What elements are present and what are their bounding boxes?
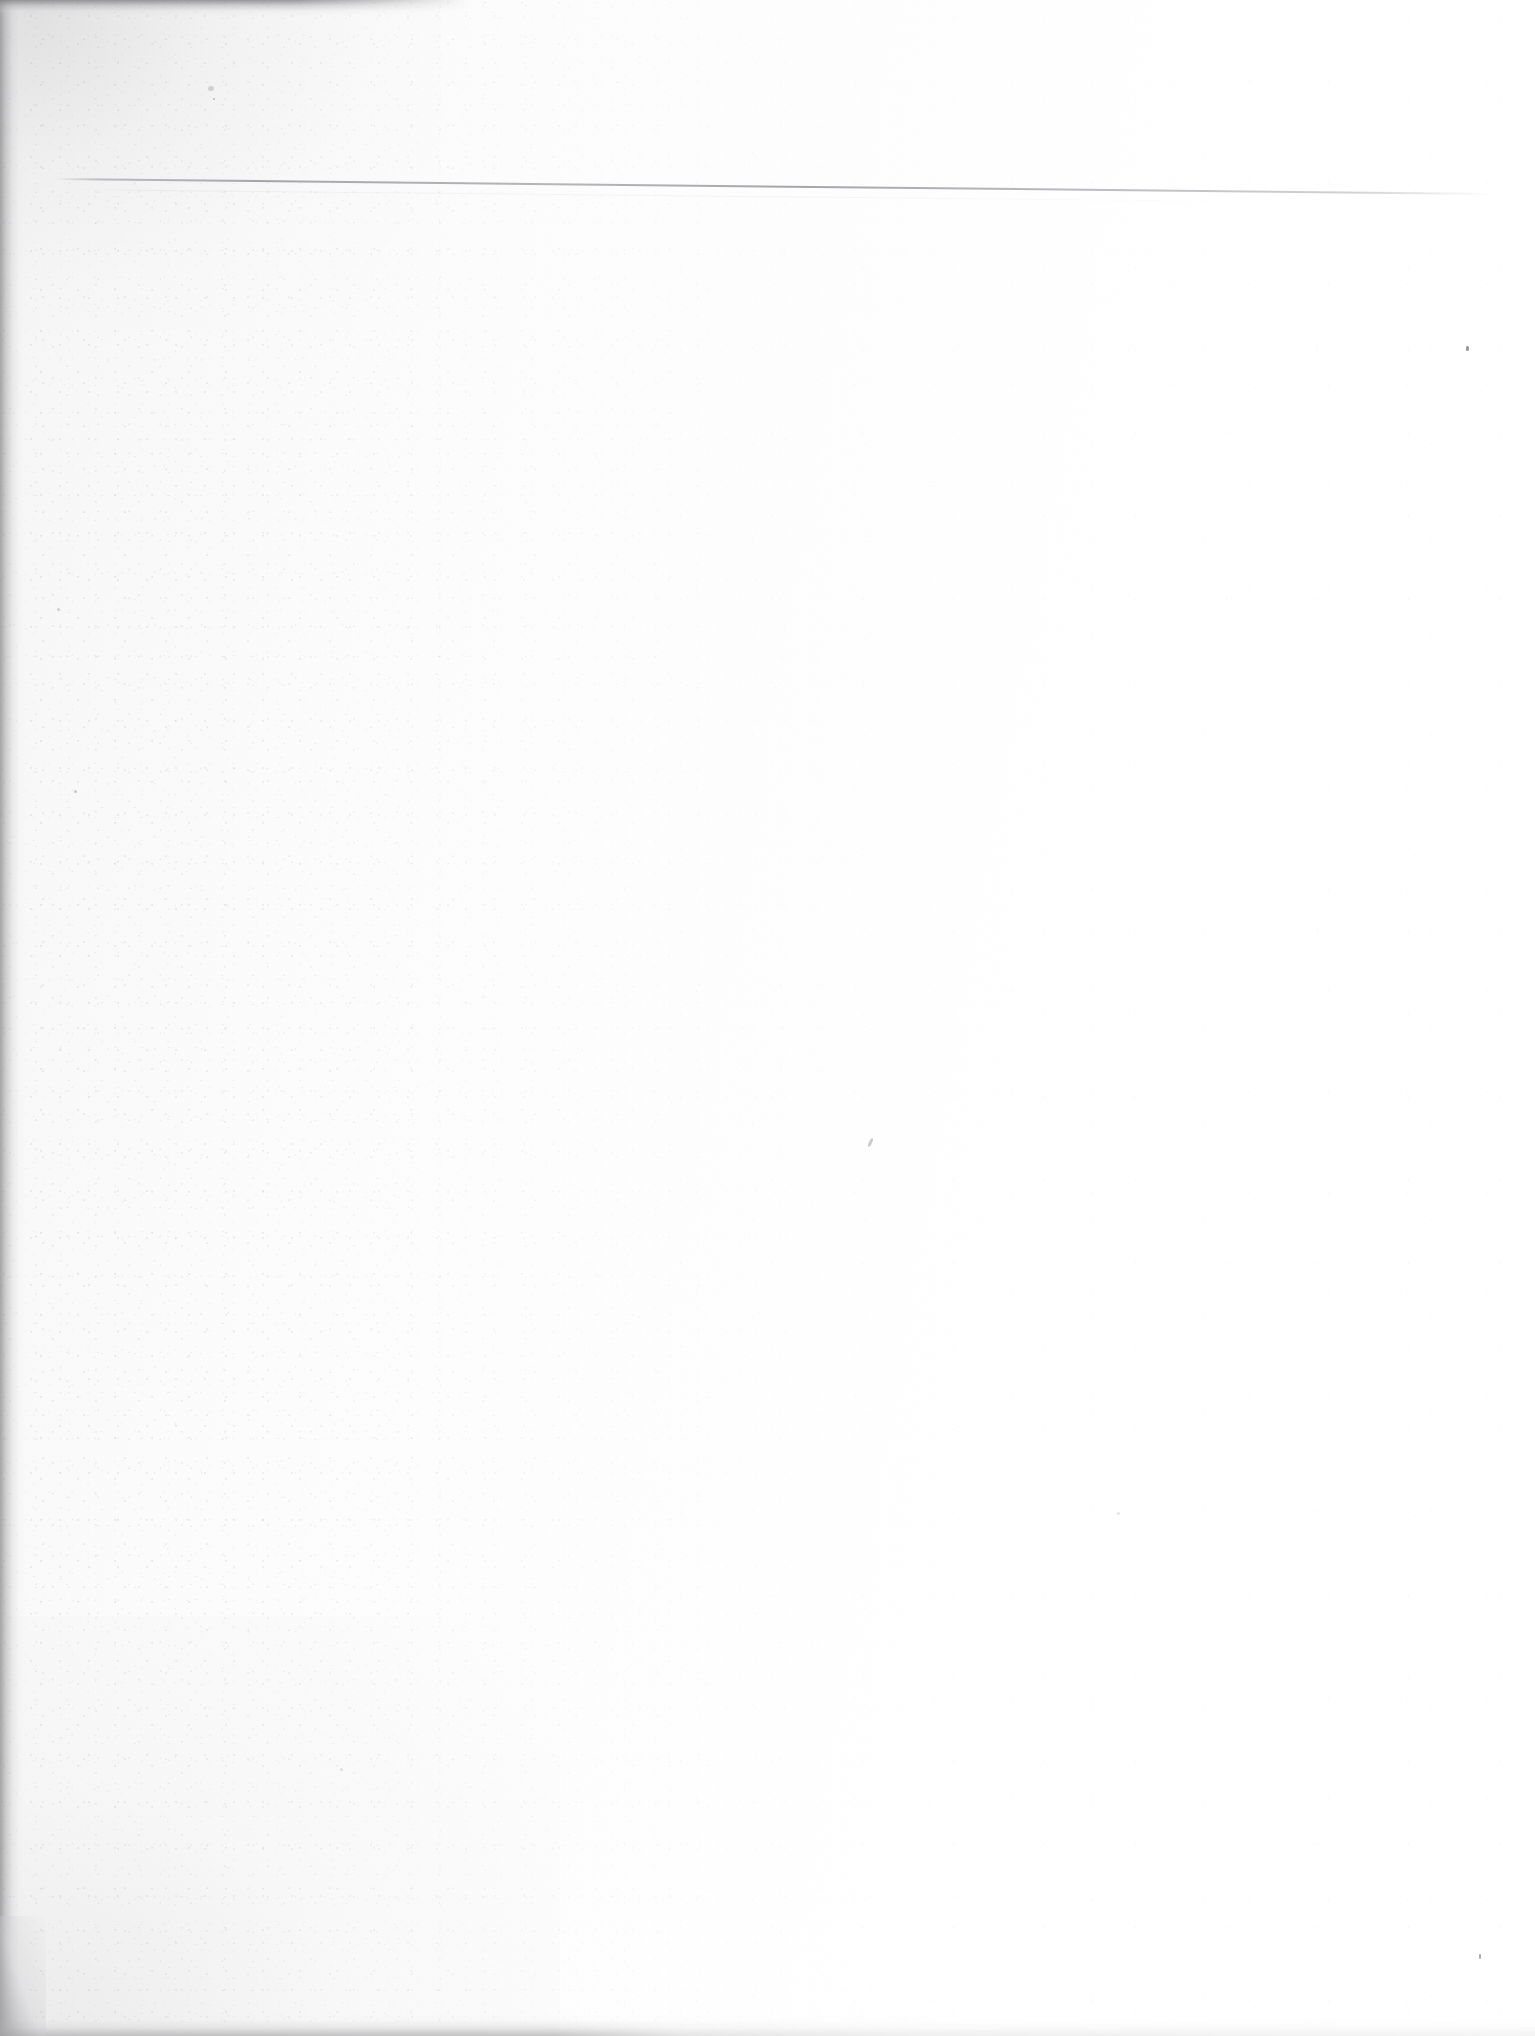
ink-speck [340,1768,343,1771]
bottom-page-edge-shadow [0,2014,1535,2036]
ink-speck [1479,1954,1481,1959]
ink-speck [74,790,77,793]
ink-speck [1466,346,1469,351]
bottom-left-corner-shadow [0,1916,46,2036]
bottom-left-smudge [0,1616,560,2036]
ink-speck [57,608,60,611]
top-page-edge-shadow [0,0,470,16]
ink-speck [1117,1512,1120,1515]
top-left-smudge [0,0,440,330]
ink-speck [213,98,215,100]
left-page-edge-shadow [0,0,26,2036]
scanned-page [0,0,1535,2036]
ink-speck [208,86,214,91]
